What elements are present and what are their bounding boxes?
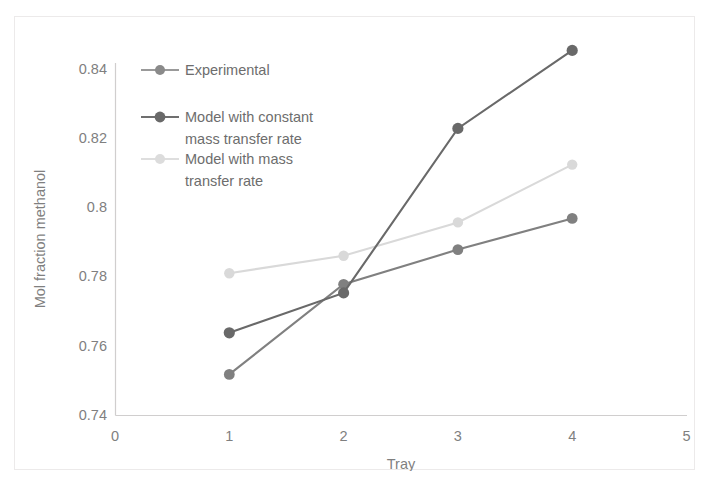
y-tick-label-4: 0.82: [79, 130, 107, 146]
data-point: [453, 244, 464, 255]
series-line-model-mass-transfer-rate: [229, 165, 572, 274]
y-tick-label-1: 0.76: [79, 338, 107, 354]
data-point: [224, 369, 235, 380]
y-axis-title: Mol fraction methanol: [32, 170, 48, 309]
chart-frame: 0.74 0.76 0.78 0.8 0.82 0.84 0 1 2 3 4 5…: [14, 16, 695, 470]
data-point: [452, 123, 463, 134]
data-point: [224, 327, 235, 338]
x-tick-label-2: 2: [340, 428, 348, 444]
legend-label-experimental: Experimental: [185, 62, 270, 78]
legend-marker-experimental: [155, 65, 165, 75]
data-point: [338, 287, 349, 298]
line-chart: 0.74 0.76 0.78 0.8 0.82 0.84 0 1 2 3 4 5…: [15, 17, 696, 471]
data-point: [338, 251, 348, 261]
data-point: [567, 159, 577, 169]
x-tick-label-5: 5: [682, 428, 690, 444]
legend-entry-experimental[interactable]: Experimental: [141, 62, 270, 78]
y-tick-label-2: 0.78: [79, 268, 107, 284]
data-point: [567, 213, 578, 224]
legend-marker-model-constant: [155, 112, 166, 123]
legend: Experimental Model with constant mass tr…: [141, 62, 313, 189]
y-tick-label-0: 0.74: [79, 407, 107, 423]
x-axis-title: Tray: [387, 456, 416, 471]
x-tick-label-3: 3: [454, 428, 462, 444]
legend-label-model-constant-line1: Model with constant: [185, 109, 313, 125]
x-tick-label-0: 0: [111, 428, 119, 444]
x-tick-label-4: 4: [568, 428, 576, 444]
legend-label-model-mtr-line2: transfer rate: [185, 173, 263, 189]
y-tick-label-5: 0.84: [79, 61, 107, 77]
legend-marker-model-mtr: [155, 154, 165, 164]
x-tick-label-1: 1: [225, 428, 233, 444]
data-point: [567, 45, 578, 56]
legend-entry-model-constant-mass-transfer-rate[interactable]: Model with constant mass transfer rate: [141, 109, 313, 147]
series-line-experimental: [229, 218, 572, 374]
legend-label-model-constant-line2: mass transfer rate: [185, 131, 302, 147]
legend-label-model-mtr-line1: Model with mass: [185, 151, 293, 167]
y-tick-label-3: 0.8: [87, 199, 107, 215]
data-point: [453, 217, 463, 227]
data-point: [224, 268, 234, 278]
legend-entry-model-mass-transfer-rate[interactable]: Model with mass transfer rate: [141, 151, 293, 189]
